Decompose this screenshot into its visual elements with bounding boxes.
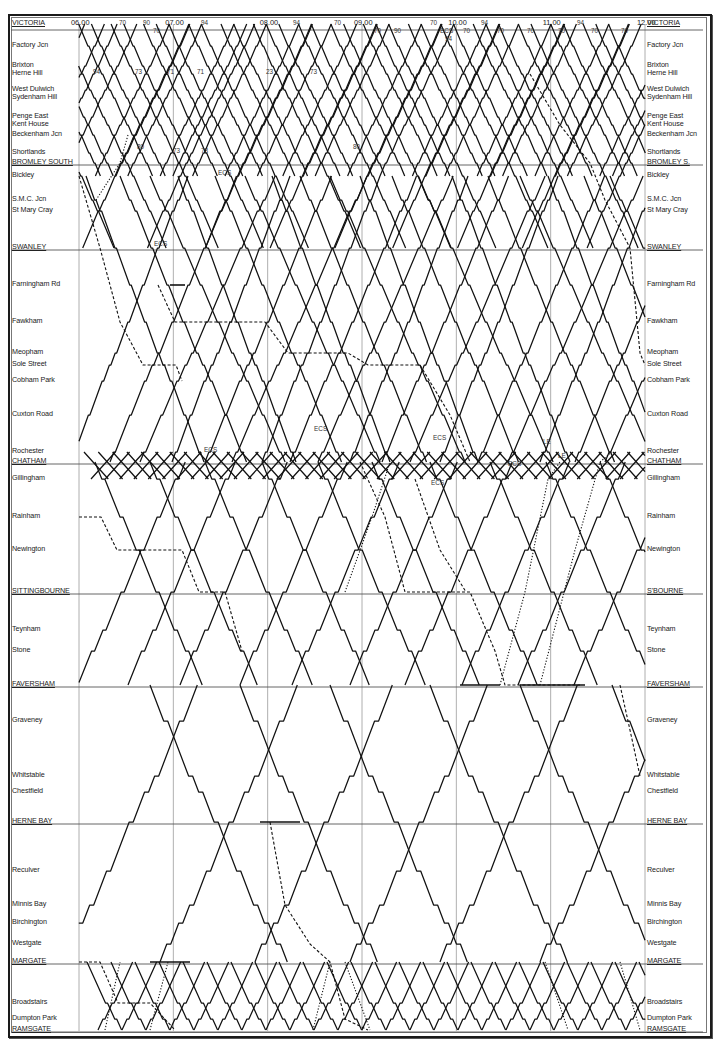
station-label-right: Dumpton Park bbox=[647, 1014, 692, 1021]
station-label-left: CHATHAM bbox=[12, 457, 46, 464]
station-label-right: Farningham Rd bbox=[647, 280, 695, 287]
path-annotation: LE bbox=[558, 453, 566, 459]
path-annotation: ECS bbox=[154, 241, 167, 247]
time-tick-label: 07.00 bbox=[165, 19, 184, 26]
station-label-left: Fawkham bbox=[12, 317, 42, 324]
station-label-left: Birchington bbox=[12, 918, 47, 925]
station-label-left: SITTINGBOURNE bbox=[12, 587, 70, 594]
path-annotation: ECS bbox=[433, 435, 446, 441]
station-label-left: Sole Street bbox=[12, 360, 46, 367]
station-label-right: Sydenham Hill bbox=[647, 93, 692, 100]
path-annotation: 94 bbox=[201, 20, 208, 26]
station-label-left: Cuxton Road bbox=[12, 410, 53, 417]
path-annotation: 70 bbox=[153, 28, 160, 34]
station-label-left: Reculver bbox=[12, 866, 40, 873]
station-label-right: Graveney bbox=[647, 716, 677, 723]
station-label-left: Rochester bbox=[12, 447, 44, 454]
station-label-right: Meopham bbox=[647, 348, 678, 355]
station-label-left: Westgate bbox=[12, 939, 41, 946]
station-label-left: BROMLEY SOUTH bbox=[12, 158, 73, 165]
path-annotation: 70 bbox=[430, 20, 437, 26]
time-tick-label: 12.00 bbox=[637, 19, 656, 26]
station-label-right: Rainham bbox=[647, 512, 675, 519]
path-annotation: 80 bbox=[353, 144, 360, 150]
station-label-right: Birchington bbox=[647, 918, 682, 925]
station-label-left: Farningham Rd bbox=[12, 280, 60, 287]
station-label-right: Rochester bbox=[647, 447, 679, 454]
time-tick-label: 06.00 bbox=[71, 19, 90, 26]
path-annotation: ECS bbox=[440, 28, 453, 34]
path-annotation: LE bbox=[543, 439, 551, 445]
station-label-right: Westgate bbox=[647, 939, 676, 946]
path-annotation: 70 bbox=[334, 20, 341, 26]
train-graph-plot bbox=[0, 0, 718, 1044]
path-annotation: 73 bbox=[173, 148, 180, 154]
station-label-left: Sydenham Hill bbox=[12, 93, 57, 100]
path-annotation: 70 bbox=[621, 28, 628, 34]
path-annotation: 70 bbox=[558, 28, 565, 34]
station-label-right: S'BOURNE bbox=[647, 587, 683, 594]
station-label-right: FAVERSHAM bbox=[647, 680, 690, 687]
path-annotation: ECS bbox=[431, 480, 444, 486]
station-label-left: Broadstairs bbox=[12, 998, 47, 1005]
path-annotation: 70 bbox=[591, 28, 598, 34]
time-tick-label: 09.00 bbox=[354, 19, 373, 26]
station-label-right: Beckenham Jcn bbox=[647, 130, 697, 137]
path-annotation: 94 bbox=[293, 20, 300, 26]
station-label-left: Cobham Park bbox=[12, 376, 55, 383]
station-label-right: Herne Hill bbox=[647, 69, 678, 76]
station-label-left: Kent House bbox=[12, 120, 49, 127]
path-annotation: 73 bbox=[135, 69, 142, 75]
path-annotation: 71 bbox=[197, 69, 204, 75]
station-label-left: HERNE BAY bbox=[12, 817, 52, 824]
station-label-right: RAMSGATE bbox=[647, 1025, 686, 1032]
station-label-right: SWANLEY bbox=[647, 243, 681, 250]
station-label-right: Sole Street bbox=[647, 360, 681, 367]
time-tick-label: 08.00 bbox=[260, 19, 279, 26]
station-label-left: Bickley bbox=[12, 171, 34, 178]
station-label-right: Bickley bbox=[647, 171, 669, 178]
station-label-right: Cobham Park bbox=[647, 376, 690, 383]
station-label-right: Stone bbox=[647, 646, 665, 653]
path-annotation: 90 bbox=[394, 28, 401, 34]
path-annotation: 94 bbox=[577, 20, 584, 26]
path-annotation: 94 bbox=[481, 20, 488, 26]
station-label-right: Cuxton Road bbox=[647, 410, 688, 417]
station-label-left: FAVERSHAM bbox=[12, 680, 55, 687]
station-label-left: Newington bbox=[12, 545, 45, 552]
station-label-right: CHATHAM bbox=[647, 457, 681, 464]
station-label-right: Kent House bbox=[647, 120, 684, 127]
station-label-right: HERNE BAY bbox=[647, 817, 687, 824]
station-label-right: Teynham bbox=[647, 625, 675, 632]
station-label-left: VICTORIA bbox=[12, 19, 45, 26]
path-annotation: 70 bbox=[463, 28, 470, 34]
station-label-right: Minnis Bay bbox=[647, 900, 681, 907]
path-annotation: ECS bbox=[508, 461, 521, 467]
station-label-right: BROMLEY S. bbox=[647, 158, 690, 165]
station-label-left: Chestfield bbox=[12, 787, 43, 794]
station-label-right: Gillingham bbox=[647, 474, 680, 481]
station-label-right: Newington bbox=[647, 545, 680, 552]
station-label-left: RAMSGATE bbox=[12, 1025, 51, 1032]
path-annotation: ECS bbox=[204, 447, 217, 453]
station-label-right: St Mary Cray bbox=[647, 206, 688, 213]
path-annotation: 73 bbox=[310, 69, 317, 75]
station-label-left: MARGATE bbox=[12, 957, 46, 964]
path-annotation: 70 bbox=[497, 28, 504, 34]
station-label-right: Broadstairs bbox=[647, 998, 682, 1005]
path-annotation: ECS bbox=[314, 426, 327, 432]
station-label-left: Rainham bbox=[12, 512, 40, 519]
station-label-left: Graveney bbox=[12, 716, 42, 723]
station-label-right: Chestfield bbox=[647, 787, 678, 794]
station-label-right: Shortlands bbox=[647, 148, 680, 155]
path-annotation: 23 bbox=[266, 69, 273, 75]
station-label-left: SWANLEY bbox=[12, 243, 46, 250]
station-label-left: Whitstable bbox=[12, 771, 45, 778]
path-annotation: 70 bbox=[374, 28, 381, 34]
station-label-left: Dumpton Park bbox=[12, 1014, 57, 1021]
station-label-left: Teynham bbox=[12, 625, 40, 632]
station-label-left: Gillingham bbox=[12, 474, 45, 481]
station-label-right: MARGATE bbox=[647, 957, 681, 964]
path-annotation: 70 bbox=[527, 28, 534, 34]
station-label-right: Whitstable bbox=[647, 771, 680, 778]
